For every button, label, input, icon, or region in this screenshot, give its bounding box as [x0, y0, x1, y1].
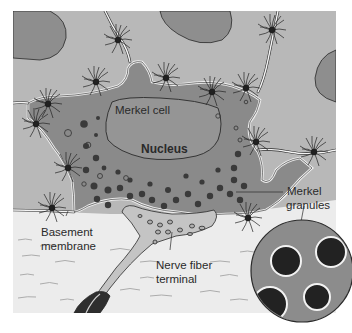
label-merkel-granules-2: granules: [286, 199, 330, 212]
label-merkel-granules-1: Merkel: [287, 185, 322, 198]
label-basement-membrane-1: Basement: [41, 226, 93, 239]
neighbor-cell-top-left: [13, 11, 66, 60]
granule-inset: [251, 220, 352, 322]
label-basement-membrane-2: membrane: [41, 240, 96, 253]
label-nerve-fiber-1: Nerve fiber: [156, 259, 212, 272]
label-nerve-fiber-2: terminal: [156, 273, 197, 286]
label-merkel-cell: Merkel cell: [115, 104, 170, 117]
label-nucleus: Nucleus: [141, 143, 188, 156]
